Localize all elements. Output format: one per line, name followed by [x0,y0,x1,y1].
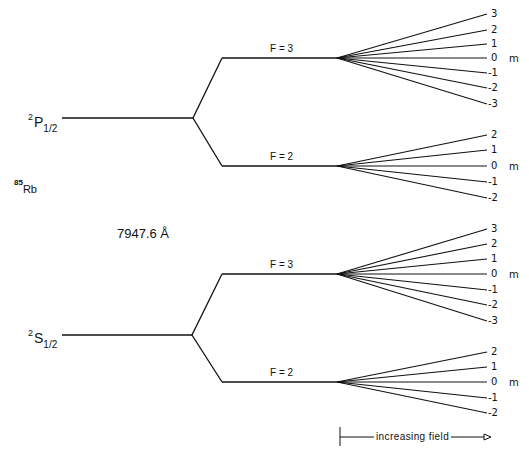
f-label-p-f2: F = 2 [270,152,293,162]
m-label: -3 [488,316,498,326]
m-label: 3 [491,9,497,19]
m-label: 0 [491,53,497,63]
m-label: -2 [488,83,498,93]
m-label: 1 [491,145,497,155]
m-axis-label: m [509,162,519,172]
term-s-half: 2S1/2 [28,326,57,352]
term-p-half: 2P1/2 [28,110,57,136]
increasing-field-label: increasing field [374,431,451,442]
m-label: -1 [488,393,498,403]
zeeman-fan-s-f2 [337,352,487,413]
m-label: -3 [488,99,498,109]
f-label-s-f3: F = 3 [270,260,293,270]
m-label: 2 [491,239,497,249]
m-axis-label: m [509,270,519,280]
m-axis-label: m [509,54,519,64]
m-label: 2 [491,130,497,140]
isotope-label: 85Rb [14,178,37,195]
m-label: 0 [491,269,497,279]
m-label: -1 [488,285,498,295]
m-label: 0 [491,161,497,171]
energy-level-diagram [0,0,529,452]
m-label: -1 [488,177,498,187]
m-label: 0 [491,377,497,387]
m-label: 1 [491,39,497,49]
m-label: 3 [491,224,497,234]
zeeman-fan-s-f3 [337,229,487,321]
m-label: -2 [488,193,498,203]
m-label: 1 [491,254,497,264]
zeeman-fan-p-f2 [337,135,487,198]
s-half-structure [62,274,337,382]
zeeman-fan-p-f3 [337,14,487,104]
f-label-p-f3: F = 3 [270,44,293,54]
m-axis-label: m [509,378,519,388]
m-label: -1 [488,68,498,78]
m-label: 2 [491,347,497,357]
p-half-structure [62,58,337,166]
wavelength-label: 7947.6 Å [117,226,169,241]
m-label: 2 [491,25,497,35]
m-label: -2 [488,300,498,310]
m-label: -2 [488,408,498,418]
f-label-s-f2: F = 2 [270,368,293,378]
m-label: 1 [491,362,497,372]
